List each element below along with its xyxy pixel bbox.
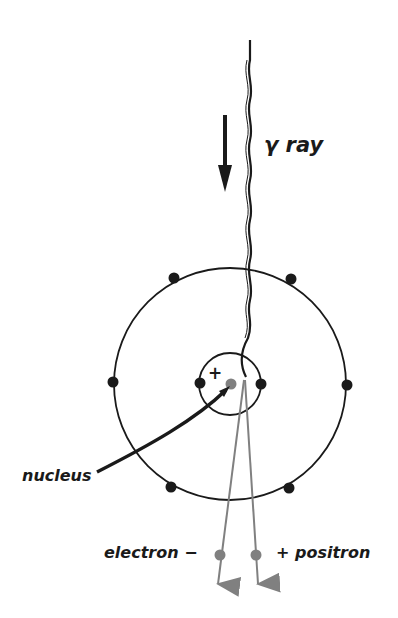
nucleus-label: nucleus (22, 466, 92, 485)
nucleus-pointer-arrow (97, 386, 230, 472)
gamma-ray-label: γ ray (264, 133, 323, 157)
electron-track (215, 380, 245, 584)
pair-production-diagram (0, 0, 398, 618)
positron-label: + positron (276, 543, 370, 562)
gamma-ray-wave (242, 40, 251, 377)
electron-label: electron − (104, 543, 198, 562)
positron-track (245, 380, 262, 584)
direction-arrow-icon (218, 115, 232, 192)
nucleus-charge-label: + (208, 363, 222, 383)
